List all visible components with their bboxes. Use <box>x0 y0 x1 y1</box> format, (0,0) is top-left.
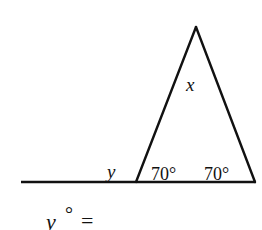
triangle-left-side <box>136 27 196 182</box>
base-left-angle-label: 70° <box>151 164 176 184</box>
base-right-angle-label: 70° <box>204 164 229 184</box>
question-equals: = <box>81 208 93 230</box>
exterior-angle-label: y <box>105 161 116 182</box>
triangle-right-side <box>196 27 255 182</box>
triangle-diagram: x y 70° 70° y ° = <box>0 0 262 230</box>
question-variable: y <box>44 209 56 230</box>
apex-angle-label: x <box>185 74 195 95</box>
question-degree-symbol: ° <box>65 203 73 225</box>
